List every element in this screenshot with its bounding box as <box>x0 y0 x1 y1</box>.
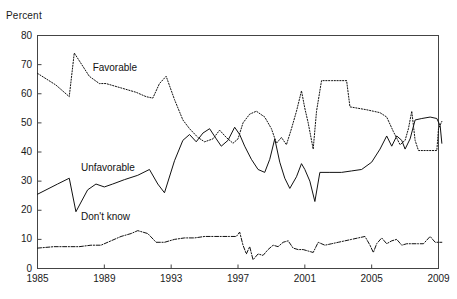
plot-area <box>0 0 457 299</box>
x-tick-label: 1985 <box>18 273 58 284</box>
y-tick-label: 70 <box>4 59 32 70</box>
x-tick-label: 1993 <box>151 273 191 284</box>
y-tick-label: 20 <box>4 204 32 215</box>
chart-container: Percent 01020304050607080198519891993199… <box>0 0 457 299</box>
series-line-don-t-know <box>38 231 442 260</box>
x-tick-label: 1989 <box>84 273 124 284</box>
series-label-don-t-know: Don't know <box>81 211 130 222</box>
x-tick-label: 2001 <box>285 273 325 284</box>
x-tick-label: 2005 <box>352 273 392 284</box>
y-tick-label: 80 <box>4 30 32 41</box>
series-label-favorable: Favorable <box>93 62 137 73</box>
y-tick-label: 40 <box>4 146 32 157</box>
y-tick-label: 10 <box>4 233 32 244</box>
y-tick-label: 60 <box>4 88 32 99</box>
y-tick-label: 30 <box>4 175 32 186</box>
y-tick-label: 50 <box>4 117 32 128</box>
x-tick-label: 1997 <box>218 273 258 284</box>
series-label-unfavorable: Unfavorable <box>81 162 135 173</box>
x-tick-label: 2009 <box>419 273 457 284</box>
